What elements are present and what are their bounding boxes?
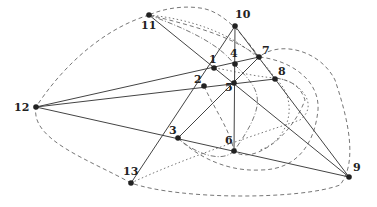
edge-3-7 (178, 57, 259, 138)
node-1 (211, 65, 217, 71)
node-13 (128, 180, 134, 186)
node-10 (232, 23, 238, 29)
node-label-11: 11 (141, 19, 156, 32)
diagram: 12345678910111213 (0, 0, 377, 207)
node-label-3: 3 (169, 124, 177, 137)
graph-canvas: 12345678910111213 (0, 0, 377, 207)
node-6 (231, 148, 237, 154)
node-label-6: 6 (225, 134, 233, 147)
node-label-13: 13 (123, 165, 138, 178)
edge-12-9 (36, 107, 349, 177)
node-12 (33, 104, 39, 110)
node-label-7: 7 (262, 44, 270, 57)
node-4 (232, 61, 238, 67)
node-label-10: 10 (235, 8, 251, 21)
node-label-4: 4 (230, 47, 238, 60)
node-7 (256, 54, 262, 60)
node-11 (146, 12, 152, 18)
node-8 (272, 76, 278, 82)
edge-10-13 (131, 26, 235, 183)
node-label-8: 8 (278, 65, 286, 78)
node-label-12: 12 (14, 101, 29, 114)
node-9 (346, 174, 352, 180)
edge-12-8 (36, 79, 275, 107)
edge-10-9 (235, 26, 349, 177)
node-label-2: 2 (194, 73, 202, 86)
edge-11-9 (149, 15, 349, 177)
node-label-5: 5 (225, 81, 233, 94)
node-label-1: 1 (209, 53, 217, 66)
node-2 (201, 83, 207, 89)
node-label-9: 9 (353, 161, 361, 174)
edge-10-6 (234, 26, 235, 151)
